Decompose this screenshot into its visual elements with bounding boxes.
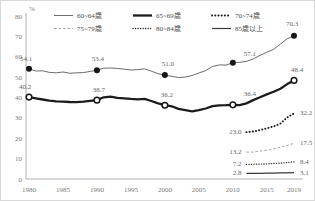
x-axis-tick-label: 2010 xyxy=(226,186,241,194)
legend-item: 70~74歳 xyxy=(211,10,290,20)
data-point-label: 54.1 xyxy=(20,55,33,63)
x-axis-tick-label: 1995 xyxy=(124,186,139,194)
y-axis-tick-label: 70 xyxy=(15,33,23,41)
x-axis-tick-label: 2005 xyxy=(192,186,207,194)
legend-label: 65~69歳 xyxy=(156,10,181,20)
x-axis-tick-label: 2019 xyxy=(287,186,302,194)
legend-line-swatch xyxy=(53,12,74,19)
legend: 60~64歳65~69歳70~74歳75~79歳80~84歳85歳以上 xyxy=(53,10,290,33)
series-end-label: 8.4 xyxy=(300,158,309,166)
x-axis-tick-label: 1990 xyxy=(90,186,105,194)
legend-line-swatch xyxy=(132,25,153,32)
legend-line-swatch xyxy=(53,25,74,32)
series-start-label: 13.2 xyxy=(229,148,242,156)
y-axis-tick-label: 0 xyxy=(19,176,23,184)
data-point-marker xyxy=(230,60,236,66)
series-end-label: 3.1 xyxy=(300,169,309,177)
data-point-label: 53.4 xyxy=(92,55,105,63)
y-axis-tick-label: 80 xyxy=(15,13,23,21)
legend-item: 75~79歳 xyxy=(53,23,132,33)
data-point-label: 40.2 xyxy=(19,83,32,91)
data-point-label: 36.4 xyxy=(244,90,257,98)
legend-row: 60~64歳65~69歳70~74歳 xyxy=(53,10,290,20)
y-axis-tick-label: 30 xyxy=(15,114,23,122)
y-axis-tick-label: 20 xyxy=(15,135,23,143)
data-point-marker xyxy=(26,94,32,100)
legend-item: 60~64歳 xyxy=(53,10,132,20)
series-end-label: 17.5 xyxy=(300,139,313,147)
data-point-marker xyxy=(94,67,100,73)
series-line xyxy=(246,113,294,132)
series-line xyxy=(246,173,294,174)
chart-frame: 60~64歳65~69歳70~74歳75~79歳80~84歳85歳以上 0102… xyxy=(0,0,315,201)
legend-label: 80~84歳 xyxy=(156,23,181,33)
legend-item: 65~69歳 xyxy=(132,10,211,20)
data-point-marker xyxy=(162,102,168,108)
legend-item: 85歳以上 xyxy=(211,23,290,33)
x-axis-tick-label: 2000 xyxy=(158,186,173,194)
data-point-marker xyxy=(162,72,168,78)
legend-label: 60~64歳 xyxy=(77,10,102,20)
legend-label: 75~79歳 xyxy=(77,23,102,33)
series-start-label: 2.8 xyxy=(233,169,242,177)
legend-line-swatch xyxy=(211,25,232,32)
data-point-label: 36.2 xyxy=(161,91,174,99)
y-axis-tick-label: 10 xyxy=(15,155,23,163)
x-axis-tick-label: 1985 xyxy=(56,186,71,194)
data-point-marker xyxy=(94,97,100,103)
y-axis-tick-label: 50 xyxy=(15,74,23,82)
series-line xyxy=(246,162,294,164)
legend-label: 70~74歳 xyxy=(235,10,260,20)
legend-item: 80~84歳 xyxy=(132,23,211,33)
data-point-marker xyxy=(26,66,32,72)
legend-line-swatch xyxy=(132,12,153,19)
y-axis-unit-label: % xyxy=(29,5,35,13)
data-point-marker xyxy=(291,33,297,39)
series-start-label: 7.2 xyxy=(233,160,242,168)
series-start-label: 23.0 xyxy=(229,128,242,136)
data-point-label: 48.4 xyxy=(291,66,304,74)
data-point-label: 38.7 xyxy=(93,86,106,94)
legend-line-swatch xyxy=(211,12,232,19)
data-point-label: 51.0 xyxy=(162,60,175,68)
x-axis-tick-label: 1980 xyxy=(22,186,37,194)
series-end-label: 32.2 xyxy=(300,109,313,117)
data-point-marker xyxy=(291,78,297,84)
legend-row: 75~79歳80~84歳85歳以上 xyxy=(53,23,290,33)
x-axis-tick-label: 2015 xyxy=(260,186,275,194)
data-point-label: 57.1 xyxy=(244,50,257,58)
data-point-marker xyxy=(230,102,236,108)
y-axis-tick-label: 40 xyxy=(15,94,23,102)
legend-label: 85歳以上 xyxy=(235,23,263,33)
series-line xyxy=(246,143,294,152)
